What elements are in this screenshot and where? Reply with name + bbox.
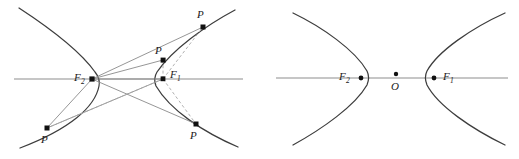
ray-F2-to-P-top-right	[92, 27, 203, 79]
label-F2-right-subscript: 2	[346, 76, 350, 85]
focus-marker-F2-left	[89, 76, 94, 81]
left-branch-curve	[19, 8, 99, 148]
label-F1-left-letter: F	[169, 68, 177, 80]
label-F1-right-subscript: 1	[450, 76, 454, 85]
center-marker-O	[394, 72, 398, 76]
point-marker-P-bottom-right	[194, 122, 199, 127]
label-F2-left-subscript: 2	[81, 77, 85, 86]
label-P-upper-mid: P	[154, 44, 162, 56]
point-marker-P-upper-mid	[161, 58, 166, 63]
point-marker-P-top-right	[201, 25, 206, 30]
figure-canvas: F 2 F 1 P P P P F	[0, 0, 519, 159]
left-panel: F 2 F 1 P P P P	[14, 8, 243, 148]
label-F2-left-letter: F	[73, 71, 81, 83]
label-O-center: O	[391, 80, 399, 92]
right-panel-right-branch	[426, 13, 506, 145]
focus-marker-F2-right	[359, 76, 364, 81]
right-panel: F 2 F 1 O	[276, 13, 508, 145]
hyperbola-figure: F 2 F 1 P P P P F	[0, 0, 519, 159]
ray-F2-to-P-bottom-right	[92, 79, 196, 124]
label-P-bottom-right: P	[189, 129, 197, 141]
dashed-F1-to-P-top-right	[163, 27, 203, 79]
label-F1-left-subscript: 1	[177, 74, 181, 83]
label-F1-right-letter: F	[442, 70, 450, 82]
label-P-top-right: P	[196, 8, 204, 20]
focus-marker-F1-left	[161, 76, 166, 81]
right-panel-left-branch	[293, 13, 369, 145]
focus-marker-F1-right	[432, 76, 437, 81]
point-marker-P-bottom-left	[45, 126, 50, 131]
label-P-bottom-left: P	[40, 133, 48, 145]
ray-F2-to-P-bottom-left	[47, 79, 92, 128]
label-F2-right-letter: F	[338, 70, 346, 82]
left-panel-labels: F 2 F 1 P P P P	[40, 8, 204, 145]
